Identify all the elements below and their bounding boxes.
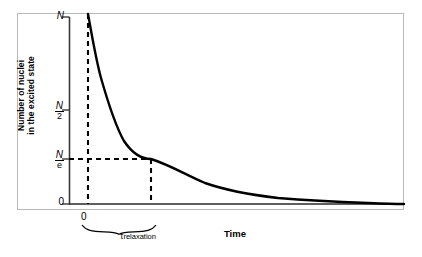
tau-relaxation-label: τrelaxation xyxy=(93,231,183,241)
y-tick-label-N-text: N xyxy=(57,10,64,21)
x-axis-title: Time xyxy=(200,228,270,239)
tau-subscript: relaxation xyxy=(123,232,156,241)
fraction-denominator: e xyxy=(55,161,64,170)
y-axis-title-line2: in the excited state xyxy=(26,56,36,135)
y-axis-title: Number of nuclei in the excited state xyxy=(16,40,37,150)
y-axis-title-line1: Number of nuclei xyxy=(16,60,26,131)
y-tick-label-n-half: N 2 xyxy=(44,101,64,121)
plot-canvas xyxy=(0,0,422,257)
x-tick-label-zero: 0 xyxy=(81,211,87,222)
y-tick-label-zero: 0 xyxy=(44,197,64,207)
decay-curve xyxy=(88,14,404,204)
y-tick-label-n-over-e: N e xyxy=(44,150,64,170)
fraction-denominator: 2 xyxy=(55,112,64,121)
decay-figure: N N 2 N e 0 0 Number of nuclei in the ex… xyxy=(0,0,422,257)
y-tick-label-N: N xyxy=(44,11,64,21)
fraction-n-over-e: N e xyxy=(55,150,64,170)
fraction-n-over-2: N 2 xyxy=(55,101,64,121)
